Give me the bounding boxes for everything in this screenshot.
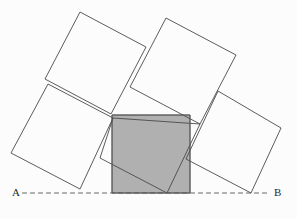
square-shaded-axis-aligned: [112, 115, 190, 193]
geometry-figure: [0, 0, 297, 219]
point-label-b: B: [274, 187, 281, 198]
point-label-a: A: [12, 187, 20, 198]
diagram-canvas: A B: [0, 0, 297, 219]
